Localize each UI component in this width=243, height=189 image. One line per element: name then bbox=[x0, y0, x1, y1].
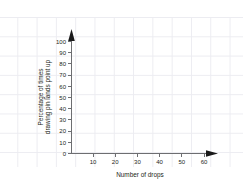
y-tick-label-20: 20 bbox=[59, 128, 66, 134]
x-tick-label-10: 10 bbox=[90, 159, 97, 165]
y-tick-label-60: 60 bbox=[59, 84, 66, 90]
x-axis-title: Number of drops bbox=[116, 171, 164, 179]
x-tick-label-50: 50 bbox=[178, 159, 185, 165]
y-tick-label-100: 100 bbox=[56, 39, 67, 45]
y-tick-label-30: 30 bbox=[59, 117, 66, 123]
chart-plot-area: 0 10 20 30 40 50 60 70 80 90 100 10 20 3… bbox=[0, 0, 243, 189]
x-axis-arrow-icon bbox=[206, 150, 218, 157]
x-tick-label-20: 20 bbox=[112, 159, 119, 165]
y-axis-title-line2: drawing pin lands point up bbox=[44, 59, 52, 134]
x-tick-label-60: 60 bbox=[201, 159, 208, 165]
y-tick-label-90: 90 bbox=[59, 50, 66, 56]
y-tick-label-10: 10 bbox=[59, 140, 66, 146]
chart-figure: 0 10 20 30 40 50 60 70 80 90 100 10 20 3… bbox=[0, 0, 243, 189]
y-axis-arrow-icon bbox=[68, 29, 75, 41]
y-tick-label-80: 80 bbox=[59, 61, 66, 67]
x-tick-label-30: 30 bbox=[134, 159, 141, 165]
y-tick-label-50: 50 bbox=[59, 95, 66, 101]
y-tick-label-0: 0 bbox=[63, 151, 67, 157]
x-tick-label-40: 40 bbox=[156, 159, 163, 165]
y-tick-label-40: 40 bbox=[59, 106, 66, 112]
y-tick-label-70: 70 bbox=[59, 72, 66, 78]
